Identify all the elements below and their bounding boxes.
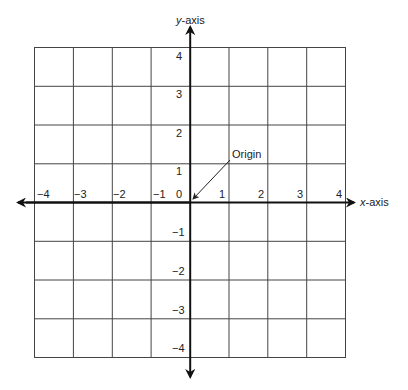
svg-text:4: 4 xyxy=(176,50,182,62)
svg-text:−2: −2 xyxy=(113,188,126,200)
x-axis-label: x-axis xyxy=(359,196,389,208)
svg-text:1: 1 xyxy=(176,165,182,177)
svg-text:−3: −3 xyxy=(74,188,87,200)
svg-text:−4: −4 xyxy=(172,342,185,354)
svg-text:2: 2 xyxy=(258,188,264,200)
svg-text:−1: −1 xyxy=(172,226,185,238)
coordinate-plane-diagram: y-axis x-axis −4 −3 −2 −1 1 2 3 4 0 4 3 … xyxy=(0,0,408,390)
origin-label: Origin xyxy=(232,148,261,160)
svg-text:−4: −4 xyxy=(37,188,50,200)
svg-text:1: 1 xyxy=(219,188,225,200)
y-axis-label: y-axis xyxy=(175,14,205,26)
origin-zero-label: 0 xyxy=(176,188,182,200)
svg-text:−2: −2 xyxy=(172,265,185,277)
svg-text:3: 3 xyxy=(297,188,303,200)
coordinate-plane-svg: y-axis x-axis −4 −3 −2 −1 1 2 3 4 0 4 3 … xyxy=(0,0,408,390)
svg-text:−1: −1 xyxy=(153,188,166,200)
svg-text:4: 4 xyxy=(336,188,342,200)
svg-text:−3: −3 xyxy=(172,304,185,316)
svg-text:3: 3 xyxy=(176,88,182,100)
svg-text:2: 2 xyxy=(176,127,182,139)
